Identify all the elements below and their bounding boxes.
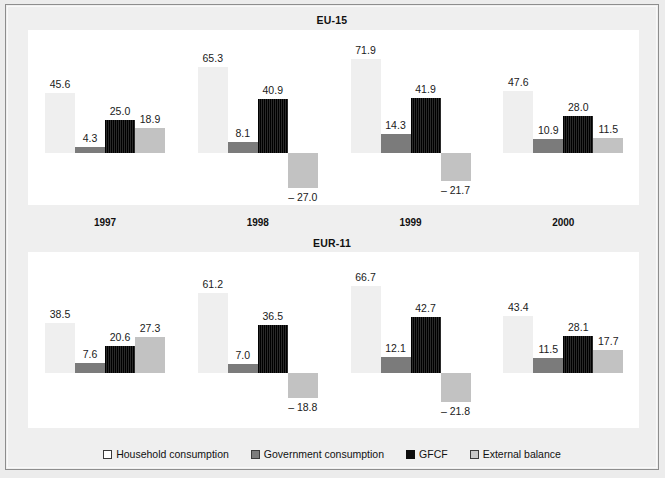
bar-household-1999 bbox=[351, 286, 381, 373]
bar-external-1999 bbox=[441, 373, 471, 402]
value-label-external-1997: 18.9 bbox=[124, 113, 176, 125]
value-label-external-1999: – 21.7 bbox=[430, 184, 482, 196]
value-label-gfcf-1999: 42.7 bbox=[400, 302, 452, 314]
bar-gfcf-1999 bbox=[411, 98, 441, 153]
value-label-external-2000: 17.7 bbox=[582, 335, 634, 347]
bar-government-1999 bbox=[381, 357, 411, 373]
bar-external-2000 bbox=[593, 138, 623, 153]
legend-swatch-household-icon bbox=[103, 450, 112, 459]
bar-group-1997: 45.64.325.018.9 bbox=[45, 30, 165, 205]
year-label-1997: 1997 bbox=[30, 217, 180, 228]
bar-external-1997 bbox=[135, 128, 165, 153]
value-label-external-1998: – 27.0 bbox=[277, 191, 329, 203]
chart-frame: EU-15 45.64.325.018.965.38.140.9– 27.071… bbox=[5, 4, 659, 470]
plot-area-eur11: 38.57.620.627.361.27.036.5– 18.866.712.1… bbox=[28, 252, 639, 428]
bar-government-1998 bbox=[228, 364, 258, 373]
legend-item-household[interactable]: Household consumption bbox=[103, 448, 229, 460]
bar-government-1998 bbox=[228, 142, 258, 153]
value-label-external-1998: – 18.8 bbox=[277, 401, 329, 413]
bar-group-2000: 47.610.928.011.5 bbox=[503, 30, 623, 205]
bar-group-1999: 71.914.341.9– 21.7 bbox=[351, 30, 471, 205]
value-label-household-1997: 45.6 bbox=[34, 78, 86, 90]
value-label-household-1999: 66.7 bbox=[340, 271, 392, 283]
year-label-1999: 1999 bbox=[336, 217, 486, 228]
legend-label-external: External balance bbox=[483, 448, 561, 460]
year-label-2000: 2000 bbox=[488, 217, 638, 228]
bar-household-1998 bbox=[198, 293, 228, 373]
bar-external-1998 bbox=[288, 373, 318, 398]
value-label-gfcf-1999: 41.9 bbox=[400, 83, 452, 95]
bar-government-2000 bbox=[533, 139, 563, 153]
bar-government-2000 bbox=[533, 358, 563, 373]
panel-title-eu15: EU-15 bbox=[6, 14, 658, 26]
legend-item-external[interactable]: External balance bbox=[470, 448, 561, 460]
bar-household-2000 bbox=[503, 91, 533, 153]
legend-label-gfcf: GFCF bbox=[419, 448, 448, 460]
bar-external-1997 bbox=[135, 337, 165, 373]
plot-area-eu15: 45.64.325.018.965.38.140.9– 27.071.914.3… bbox=[28, 30, 639, 205]
bar-group-2000: 43.411.528.117.7 bbox=[503, 252, 623, 428]
value-label-external-1997: 27.3 bbox=[124, 322, 176, 334]
value-label-household-2000: 43.4 bbox=[492, 301, 544, 313]
chart-legend: Household consumptionGovernment consumpt… bbox=[6, 448, 658, 460]
value-label-gfcf-2000: 28.1 bbox=[552, 321, 604, 333]
bar-group-1999: 66.712.142.7– 21.8 bbox=[351, 252, 471, 428]
bar-government-1999 bbox=[381, 134, 411, 153]
bar-household-1999 bbox=[351, 59, 381, 153]
bar-household-1998 bbox=[198, 67, 228, 153]
legend-swatch-external-icon bbox=[470, 450, 479, 459]
legend-label-household: Household consumption bbox=[116, 448, 229, 460]
legend-label-government: Government consumption bbox=[264, 448, 384, 460]
chart-page: EU-15 45.64.325.018.965.38.140.9– 27.071… bbox=[0, 0, 665, 478]
bar-gfcf-1998 bbox=[258, 325, 288, 373]
value-label-external-2000: 11.5 bbox=[582, 123, 634, 135]
bar-external-2000 bbox=[593, 350, 623, 373]
bar-group-1997: 38.57.620.627.3 bbox=[45, 252, 165, 428]
value-label-gfcf-1998: 40.9 bbox=[247, 84, 299, 96]
legend-item-gfcf[interactable]: GFCF bbox=[406, 448, 448, 460]
year-axis: 1997199819992000 bbox=[6, 217, 658, 233]
bar-government-1997 bbox=[75, 147, 105, 153]
bar-group-1998: 61.27.036.5– 18.8 bbox=[198, 252, 318, 428]
bar-external-1998 bbox=[288, 153, 318, 188]
value-label-gfcf-1998: 36.5 bbox=[247, 310, 299, 322]
year-label-1998: 1998 bbox=[183, 217, 333, 228]
bar-gfcf-1999 bbox=[411, 317, 441, 373]
value-label-gfcf-2000: 28.0 bbox=[552, 101, 604, 113]
legend-swatch-government-icon bbox=[251, 450, 260, 459]
bar-external-1999 bbox=[441, 153, 471, 181]
bar-gfcf-1998 bbox=[258, 99, 288, 153]
value-label-household-1998: 65.3 bbox=[187, 52, 239, 64]
value-label-household-1999: 71.9 bbox=[340, 44, 392, 56]
bar-group-1998: 65.38.140.9– 27.0 bbox=[198, 30, 318, 205]
value-label-household-2000: 47.6 bbox=[492, 76, 544, 88]
legend-swatch-gfcf-icon bbox=[406, 450, 415, 459]
value-label-household-1998: 61.2 bbox=[187, 278, 239, 290]
bar-government-1997 bbox=[75, 363, 105, 373]
bar-gfcf-1997 bbox=[105, 346, 135, 373]
legend-item-government[interactable]: Government consumption bbox=[251, 448, 384, 460]
value-label-external-1999: – 21.8 bbox=[430, 405, 482, 417]
panel-title-eur11: EUR-11 bbox=[6, 237, 658, 249]
value-label-household-1997: 38.5 bbox=[34, 308, 86, 320]
